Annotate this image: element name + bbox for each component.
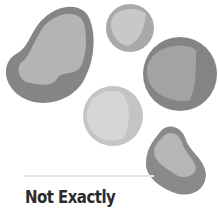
blob-bottom-right [146,126,206,194]
blob-light-circle [83,86,143,146]
pebbles-illustration [0,0,218,212]
blob-small-circle [106,4,154,52]
blob-large-circle [143,37,217,111]
blob-large-left [6,7,94,103]
answer-card: Not Exactly [0,0,218,212]
verdict-heading: Not Exactly [25,187,115,207]
divider-line [24,175,154,177]
